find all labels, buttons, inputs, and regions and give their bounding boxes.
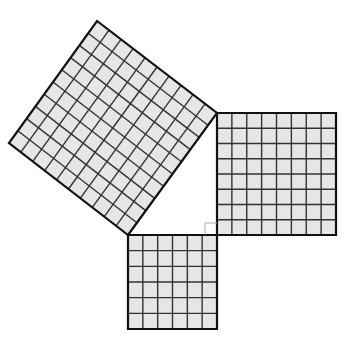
hypotenuse-square-c — [9, 21, 217, 235]
right-angle-marker — [205, 223, 217, 235]
leg-square-b — [217, 113, 336, 235]
pythagorean-diagram: Pythagorean theorem squares — [0, 0, 356, 349]
leg-square-a — [128, 235, 217, 329]
diagram-canvas — [0, 0, 356, 349]
squares-group — [9, 21, 336, 329]
